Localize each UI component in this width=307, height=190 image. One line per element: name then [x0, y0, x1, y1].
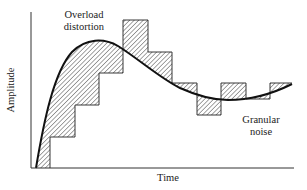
granular-line2: noise [237, 126, 285, 138]
overload-distortion-label: Overload distortion [52, 9, 116, 33]
overload-line1: Overload [52, 9, 116, 21]
granular-noise-label: Granular noise [237, 114, 285, 138]
y-axis-label: Amplitude [5, 65, 17, 115]
delta-modulation-diagram [0, 0, 307, 190]
x-axis-label: Time [148, 172, 188, 184]
overload-line2: distortion [52, 21, 116, 33]
granular-line1: Granular [237, 114, 285, 126]
